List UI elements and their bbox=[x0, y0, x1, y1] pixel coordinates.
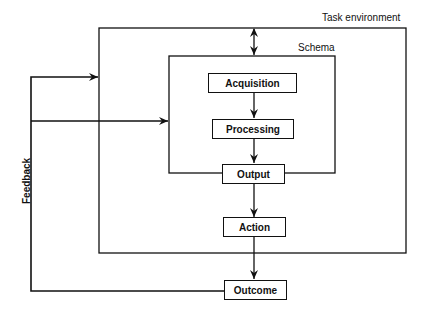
action-node: Action bbox=[223, 217, 286, 237]
outcome-node: Outcome bbox=[224, 280, 287, 300]
acquisition-label: Acquisition bbox=[225, 78, 279, 89]
action-label: Action bbox=[239, 222, 270, 233]
schema-label: Schema bbox=[298, 42, 335, 53]
processing-label: Processing bbox=[226, 124, 280, 135]
outcome-label: Outcome bbox=[234, 285, 277, 296]
acquisition-node: Acquisition bbox=[208, 73, 297, 93]
output-label: Output bbox=[237, 169, 270, 180]
output-node: Output bbox=[222, 164, 285, 184]
task-environment-label: Task environment bbox=[322, 12, 400, 23]
processing-node: Processing bbox=[212, 119, 294, 139]
feedback-label: Feedback bbox=[21, 158, 32, 204]
diagram-lines bbox=[0, 0, 429, 314]
